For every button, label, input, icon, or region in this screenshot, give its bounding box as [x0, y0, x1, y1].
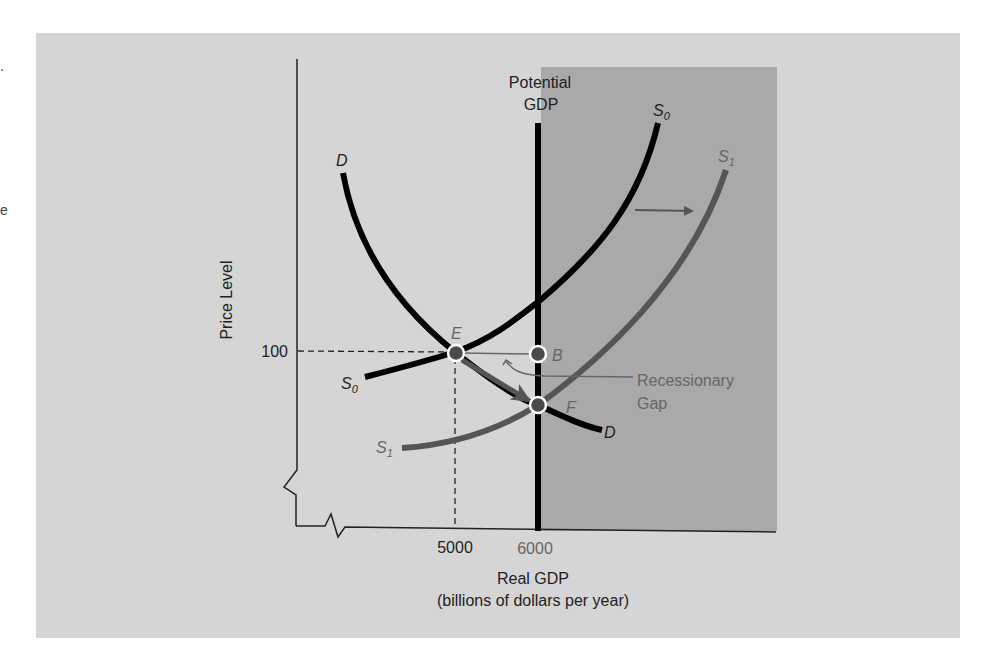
point-b [530, 346, 546, 362]
y-tick-100: 100 [261, 343, 288, 360]
demand-label-start: D [336, 152, 348, 169]
ad-as-chart: Potential GDP D D S0 S0 S1 S1 E B F Rece… [0, 0, 993, 666]
potential-gdp-label-2: GDP [524, 96, 559, 113]
x-axis-sublabel: (billions of dollars per year) [437, 592, 629, 609]
x-axis-label: Real GDP [497, 570, 569, 587]
y-axis-label: Price Level [218, 260, 235, 339]
point-e [448, 345, 464, 361]
demand-label-end: D [604, 424, 616, 441]
point-f-label: F [566, 399, 577, 416]
movement-arrow [462, 360, 528, 400]
recessionary-gap-label-2: Gap [637, 395, 667, 412]
x-tick-6000: 6000 [517, 540, 553, 557]
y-axis [284, 59, 297, 526]
price-100-guide [298, 351, 450, 352]
point-e-label: E [451, 325, 462, 342]
x-tick-5000: 5000 [437, 539, 473, 556]
point-f [530, 397, 546, 413]
shaded-region [541, 67, 777, 531]
shift-arrow [635, 210, 692, 211]
gap-line [460, 353, 533, 354]
point-b-label: B [552, 347, 563, 364]
s0-label-bottom: S0 [341, 375, 359, 395]
potential-gdp-label-1: Potential [509, 74, 571, 91]
recessionary-gap-label-1: Recessionary [637, 372, 734, 389]
s1-label-bottom: S1 [376, 439, 393, 459]
